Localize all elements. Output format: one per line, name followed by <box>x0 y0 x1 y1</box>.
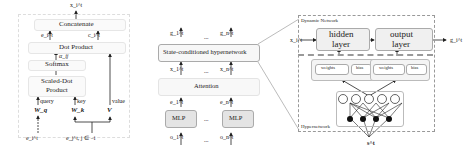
xn-label: x_n^t <box>220 66 233 72</box>
ellipsis-bottom: ... <box>204 137 209 143</box>
section-divider <box>298 54 433 56</box>
wq-label: W_q <box>34 107 47 114</box>
mlp-label-n: MLP <box>229 115 242 122</box>
attention-label: Attention <box>194 83 219 90</box>
hypernet-mlp-box <box>336 91 404 127</box>
output-label: output <box>390 30 413 39</box>
product-label: Product <box>46 87 68 94</box>
dynamic-network-title: Dynamic Network <box>301 18 338 23</box>
gn-label: g_n^t <box>220 30 233 36</box>
query-label: query <box>40 98 54 104</box>
hidden-layer-label: layer <box>332 40 350 49</box>
value-label: value <box>112 98 125 104</box>
wk-label: W_k <box>71 107 84 114</box>
softmax-label: Softmax <box>45 61 69 68</box>
hidden-label: hidden <box>329 30 354 39</box>
output-layer-label: layer <box>392 40 410 49</box>
hypernetwork-title: Hypernetwork <box>301 124 330 129</box>
bias-label-2: bias <box>411 66 418 71</box>
ellipsis-top: ... <box>204 34 209 40</box>
mlp-label-1: MLP <box>172 115 185 122</box>
state-label: s^t <box>367 140 375 146</box>
alpha-label: α_ij <box>59 53 68 59</box>
v-label: V <box>107 107 112 114</box>
c-label: c_i^t <box>88 32 100 38</box>
weights-label-1: weights <box>321 66 335 71</box>
scaled-dot-label: Scaled-Dot <box>41 78 73 85</box>
weights-label-2: weights <box>379 66 393 71</box>
concatenate-label: Concatenate <box>59 21 94 28</box>
g1-label: g_1^t <box>170 30 183 36</box>
output-x-label: x_i^t <box>70 2 82 8</box>
dot-product-label: Dot Product <box>59 44 93 51</box>
key-label: key <box>77 98 86 104</box>
input-j-label: e_j^t, j ∈ −i <box>66 135 96 141</box>
x1-label: x_1^t <box>170 66 183 72</box>
input-i-label: e_i^t <box>26 135 38 141</box>
dynamic-output-label: g_i^t <box>450 37 462 43</box>
en-label: e_n^t <box>220 99 233 105</box>
ellipsis-mid: ... <box>204 68 209 74</box>
bias-label-1: bias <box>356 66 363 71</box>
on-label: o_n^t <box>220 134 233 140</box>
ellipsis-mlp: ... <box>204 116 209 122</box>
e1-label: e_1^t <box>170 99 183 105</box>
o1-label: o_1^t <box>170 134 183 140</box>
hypernetwork-label: State-conditioned hypernetwork <box>163 49 247 56</box>
dynamic-input-label: x_i^t <box>290 37 302 43</box>
e-label: e_i^t <box>41 32 53 38</box>
hypernetwork-architecture-diagram: x_i^t Concatenate e_i^t c_i^t Dot Produc… <box>0 0 473 152</box>
